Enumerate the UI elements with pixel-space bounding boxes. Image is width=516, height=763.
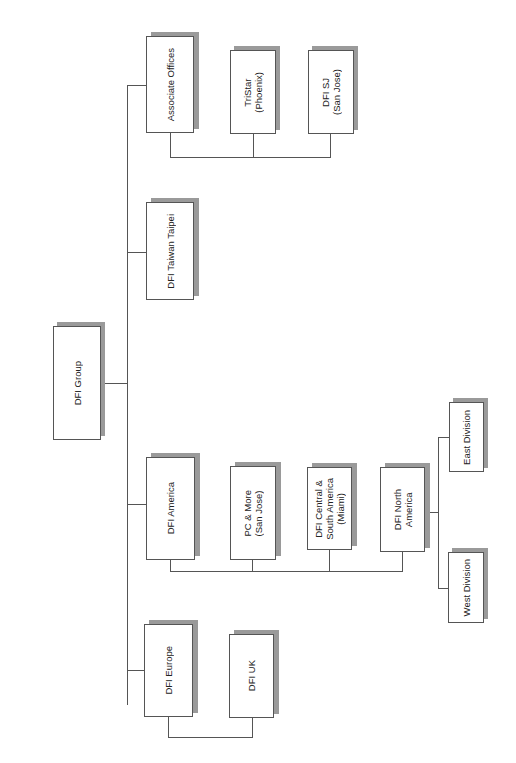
- node-label: DFI Europe: [163, 646, 174, 695]
- connector-main-trunk: [127, 85, 128, 705]
- connector-central-south-down: [329, 550, 330, 572]
- node-label: DFI UK: [246, 660, 257, 691]
- connector-uk-down: [252, 718, 253, 738]
- node-dfi-north-america: DFI North America: [380, 467, 425, 552]
- node-label: DFI North America: [392, 489, 414, 530]
- connector-dfi-taiwan: [127, 252, 146, 253]
- connector-ao-down: [170, 133, 171, 158]
- node-label: East Division: [461, 410, 472, 465]
- connector-associate-offices: [127, 85, 146, 86]
- connector-root-stub: [101, 383, 128, 384]
- node-east-division: East Division: [449, 402, 484, 472]
- node-label: DFI Group: [72, 361, 83, 405]
- node-west-division: West Division: [448, 552, 484, 623]
- node-pc-more: PC & More (San Jose): [230, 466, 276, 560]
- connector-north-america-down: [402, 552, 403, 572]
- node-label: DFI Taiwan Taipei: [165, 214, 176, 289]
- node-dfi-sj: DFI SJ (San Jose): [308, 50, 354, 134]
- org-chart: DFI Group Associate Offices TriStar (Pho…: [0, 0, 516, 763]
- node-label: DFI SJ (San Jose): [320, 69, 342, 115]
- node-label: DFI America: [165, 482, 176, 534]
- node-dfi-group: DFI Group: [53, 326, 101, 440]
- connector-pc-more-down: [252, 560, 253, 572]
- connector-ao-bus: [170, 157, 331, 158]
- connector-west-division: [438, 588, 448, 589]
- node-label: TriStar (Phoenix): [242, 72, 264, 113]
- connector-europe-bus: [168, 737, 253, 738]
- node-dfi-america: DFI America: [146, 457, 195, 560]
- node-label: Associate Offices: [165, 48, 176, 121]
- connector-east-division: [438, 437, 449, 438]
- node-dfi-central-south-america: DFI Central & South America (Miami): [307, 467, 352, 550]
- node-label: PC & More (San Jose): [242, 490, 264, 536]
- node-dfi-uk: DFI UK: [229, 634, 274, 718]
- connector-dfi-europe: [127, 670, 144, 671]
- connector-dfi-america: [127, 504, 146, 505]
- connector-europe-down: [168, 717, 169, 738]
- node-tristar: TriStar (Phoenix): [230, 50, 276, 134]
- node-label: DFI Central & South America (Miami): [313, 478, 346, 540]
- node-associate-offices: Associate Offices: [146, 36, 194, 133]
- node-label: West Division: [461, 559, 472, 616]
- connector-dfi-sj-down: [330, 134, 331, 158]
- connector-division-trunk: [438, 437, 439, 589]
- connector-tristar-down: [253, 134, 254, 158]
- node-dfi-europe: DFI Europe: [144, 624, 193, 717]
- connector-america-bus: [170, 571, 403, 572]
- node-dfi-taiwan: DFI Taiwan Taipei: [146, 202, 194, 300]
